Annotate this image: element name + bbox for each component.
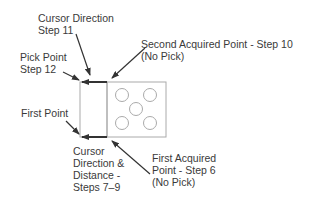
label-pick-point: Pick Point Step 12 [20,51,67,75]
label-line: (No Pick) [152,176,216,188]
label-line: Cursor Direction [38,12,114,24]
label-line: Step 12 [20,63,67,75]
label-first-point: First Point [21,107,68,119]
part-box [107,82,166,137]
leader-first-point [66,121,79,134]
label-line: Pick Point [20,51,67,63]
label-line: First Point [21,107,68,119]
label-line: Step 11 [38,24,114,36]
label-first-acquired: First Acquired Point - Step 6 (No Pick) [152,152,216,188]
hole-circles [116,89,157,130]
label-line: Steps 7–9 [73,181,124,193]
label-second-acquired: Second Acquired Point - Step 10 (No Pick… [141,38,293,62]
label-line: Cursor [73,145,124,157]
leader-cursor-direction [76,34,90,75]
reference-rectangle [80,82,107,137]
label-line: First Acquired [152,152,216,164]
label-cursor-direction: Cursor Direction Step 11 [38,12,114,36]
label-cursor-distance: Cursor Direction & Distance - Steps 7–9 [73,145,124,193]
label-line: (No Pick) [141,50,293,62]
label-line: Second Acquired Point - Step 10 [141,38,293,50]
label-line: Direction & [73,157,124,169]
label-line: Distance - [73,169,124,181]
label-line: Point - Step 6 [152,164,216,176]
